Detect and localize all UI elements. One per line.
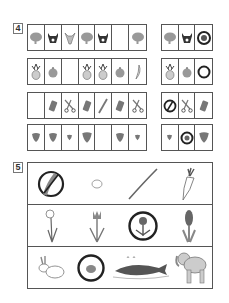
- cell: [45, 59, 62, 84]
- cow-icon: [180, 31, 194, 45]
- cow-icon: [46, 31, 60, 45]
- strawberry-large-icon: [31, 132, 41, 143]
- scissors-icon: [131, 99, 145, 113]
- pineapple-icon: [80, 64, 94, 80]
- ex4-row4-sequence: [27, 124, 147, 151]
- cell: [62, 25, 79, 50]
- ex4-row2-options: [161, 58, 213, 85]
- item[interactable]: [31, 165, 71, 203]
- strawberry-large-icon: [48, 132, 58, 143]
- elephant-icon: [80, 31, 94, 45]
- option-cell[interactable]: [195, 93, 212, 118]
- option-cell[interactable]: [195, 59, 212, 84]
- scissors-icon: [63, 99, 77, 113]
- option-cell[interactable]: [162, 25, 179, 50]
- empty-cell[interactable]: [95, 125, 112, 150]
- cell: [95, 93, 112, 118]
- cell: [45, 93, 62, 118]
- cell: [28, 25, 45, 50]
- item[interactable]: [77, 207, 117, 245]
- item[interactable]: [123, 207, 163, 245]
- apple-icon: [181, 66, 193, 78]
- item[interactable]: [169, 165, 209, 203]
- cell: [95, 59, 112, 84]
- cell: [112, 93, 129, 118]
- empty-cell[interactable]: [112, 25, 129, 50]
- cell: [79, 125, 96, 150]
- ex4-row4-options: [161, 124, 213, 151]
- item[interactable]: [71, 249, 111, 287]
- lion-circled-icon: [197, 31, 211, 45]
- sharpener-icon: [198, 99, 210, 113]
- elephant-icon: [163, 31, 177, 45]
- option-cell[interactable]: [162, 125, 179, 150]
- option-cell[interactable]: [179, 25, 196, 50]
- apple-icon: [114, 66, 126, 78]
- pineapple-icon: [29, 64, 43, 80]
- hyacinth-icon: [180, 208, 198, 244]
- ex5-row-flowers: [28, 205, 212, 247]
- pineapple-icon: [96, 64, 110, 80]
- ex5-row-animals: [28, 247, 212, 288]
- cell: [79, 93, 96, 118]
- cell: [45, 125, 62, 150]
- potato-icon: [91, 179, 103, 189]
- stick-icon: [127, 167, 159, 201]
- option-cell[interactable]: [195, 25, 212, 50]
- option-cell[interactable]: [195, 125, 212, 150]
- ex4-row3-sequence: [27, 92, 147, 119]
- empty-cell[interactable]: [62, 59, 79, 84]
- carrot-icon: [179, 166, 199, 202]
- cell: [28, 125, 45, 150]
- option-cell[interactable]: [179, 125, 196, 150]
- sharpener-icon: [114, 99, 126, 113]
- cell: [28, 59, 45, 84]
- frog-circled-icon: [76, 253, 106, 283]
- ex4-row1-options: [161, 24, 213, 51]
- scissors-icon: [180, 99, 194, 113]
- pencil-icon: [97, 98, 109, 114]
- item[interactable]: [169, 207, 209, 245]
- exercise-5-number: 5: [13, 162, 23, 173]
- option-cell[interactable]: [162, 59, 179, 84]
- cell: [45, 25, 62, 50]
- exercise-4-number: 4: [13, 23, 23, 34]
- item[interactable]: [123, 165, 163, 203]
- option-cell[interactable]: [179, 59, 196, 84]
- ex4-row2-sequence: [27, 58, 147, 85]
- sharpener-icon: [81, 99, 93, 113]
- cell: [129, 93, 146, 118]
- cell: [112, 59, 129, 84]
- item[interactable]: [171, 249, 211, 287]
- flower-circled-icon: [127, 210, 159, 242]
- elephant-icon: [131, 31, 145, 45]
- sharpener-icon: [47, 99, 59, 113]
- elephant-icon: [173, 250, 209, 286]
- ex4-row1-sequence: [27, 24, 147, 51]
- crossed-circle-icon: [163, 99, 177, 113]
- strawberry-small-icon: [134, 134, 141, 141]
- empty-cell[interactable]: [28, 93, 45, 118]
- strawberry-small-icon: [66, 134, 73, 141]
- item[interactable]: [113, 249, 169, 287]
- item[interactable]: [77, 165, 117, 203]
- cell: [112, 125, 129, 150]
- strawberry-large-icon: [115, 132, 125, 143]
- whale-icon: [113, 255, 169, 281]
- cell: [62, 125, 79, 150]
- tulip-icon: [87, 208, 107, 244]
- option-cell[interactable]: [179, 93, 196, 118]
- strawberry-large-icon: [198, 131, 210, 144]
- ex4-row3-options: [161, 92, 213, 119]
- banana-icon: [133, 64, 143, 80]
- pineapple-icon: [163, 64, 177, 80]
- item[interactable]: [31, 207, 71, 245]
- ex5-grid: [27, 162, 213, 289]
- cell: [129, 25, 146, 50]
- cell: [79, 59, 96, 84]
- daffodil-icon: [42, 208, 60, 244]
- cell: [79, 25, 96, 50]
- option-cell[interactable]: [162, 93, 179, 118]
- cell: [95, 25, 112, 50]
- item[interactable]: [29, 249, 69, 287]
